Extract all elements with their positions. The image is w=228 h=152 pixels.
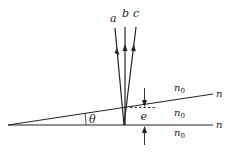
medium-middle-label: n0 — [174, 107, 185, 120]
ray-b-label: b — [122, 7, 129, 20]
angle-arc — [85, 113, 86, 125]
upper-interface-label: n — [216, 88, 222, 99]
ray-a-arrow-icon — [115, 48, 120, 55]
air-wedge-diagram: θ a b c e n0 n0 n0 n n — [0, 0, 228, 152]
ray-c — [124, 27, 136, 125]
lower-interface-label: n — [216, 119, 222, 130]
ray-a-label: a — [110, 12, 117, 25]
medium-bottom-label: n0 — [174, 127, 185, 140]
ray-a — [115, 28, 124, 125]
angle-label: θ — [89, 113, 96, 126]
ray-b-arrow-icon — [123, 44, 128, 51]
medium-top-label: n0 — [174, 82, 185, 95]
thickness-label: e — [141, 110, 148, 123]
svg-text:n0: n0 — [174, 82, 185, 95]
ray-c-label: c — [133, 7, 139, 20]
thickness-arrow-bottom-icon — [142, 126, 147, 133]
thickness-arrow-top-icon — [142, 100, 147, 107]
upper-interface-line — [8, 94, 213, 125]
svg-text:n0: n0 — [174, 127, 185, 140]
svg-text:n0: n0 — [174, 107, 185, 120]
